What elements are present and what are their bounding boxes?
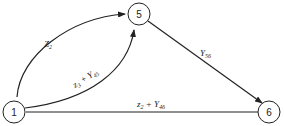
node-1: 1 <box>3 101 25 123</box>
edge-label-y56: Y56 <box>200 48 211 59</box>
node-6: 6 <box>258 101 280 123</box>
edge-1-5-upper <box>17 14 125 97</box>
network-diagram: Z2 z3 + Y45 Y56 z2 + Y46 1 5 6 <box>0 0 284 126</box>
svg-text:1: 1 <box>11 107 17 118</box>
svg-text:5: 5 <box>136 9 142 20</box>
edge-label-z3-y45: z3 + Y45 <box>70 66 101 91</box>
node-5: 5 <box>128 3 150 25</box>
svg-text:6: 6 <box>266 107 272 118</box>
edge-5-6 <box>148 21 262 103</box>
edge-1-5-lower <box>25 30 134 108</box>
edge-label-z2-y46: z2 + Y46 <box>136 99 165 110</box>
edge-label-z2: Z2 <box>44 39 52 50</box>
